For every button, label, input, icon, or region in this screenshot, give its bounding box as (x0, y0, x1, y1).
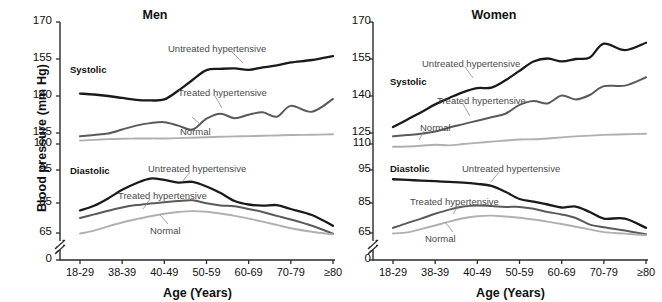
series-label-treated-men-dia: Treated hypertensive (118, 190, 207, 201)
y-tick-label-w-65: 65 (337, 225, 371, 237)
y-tick-label-0: 0 (18, 252, 52, 264)
y-tick-label-140: 140 (18, 88, 52, 100)
x-axis-title: Age (Years) (466, 286, 556, 300)
group-label-diastolic-women: Diastolic (390, 163, 430, 174)
group-label-systolic-women: Systolic (390, 76, 426, 87)
series-label-normal-women-sys: Normal (420, 122, 451, 133)
series-label-untreated-women-dia: Untreated hypertensive (462, 163, 560, 174)
y-tick-label-w-155: 155 (337, 51, 371, 63)
figure-root: Blood pressure (mm Hg) Men Women 0658595… (0, 0, 662, 302)
series-label-treated-women-dia: Treated hypertensive (410, 196, 499, 207)
y-tick-label-w-110: 110 (337, 136, 371, 148)
series-label-untreated-women-sys: Untreated hypertensive (422, 58, 520, 69)
x-tick-label-≥80: ≥80 (307, 266, 359, 278)
series-label-treated-men-sys: Treated hypertensive (178, 87, 267, 98)
group-label-systolic-men: Systolic (70, 64, 106, 75)
y-tick-label-125: 125 (18, 125, 52, 137)
series-label-normal-women-dia: Normal (425, 233, 456, 244)
y-tick-label-w-95: 95 (337, 162, 371, 174)
series-label-normal-men-sys: Normal (180, 126, 211, 137)
y-tick-label-65: 65 (18, 225, 52, 237)
plot-area-women (331, 0, 662, 302)
y-tick-label-85: 85 (18, 195, 52, 207)
y-tick-label-w-170: 170 (337, 14, 371, 26)
y-tick-label-95: 95 (18, 162, 52, 174)
series-label-untreated-men-sys: Untreated hypertensive (168, 43, 266, 54)
series-label-normal-men-dia: Normal (150, 225, 181, 236)
series-label-untreated-men-dia: Untreated hypertensive (148, 163, 246, 174)
y-tick-label-170: 170 (18, 14, 52, 26)
group-label-diastolic-men: Diastolic (70, 165, 110, 176)
series-label-treated-women-sys: Treated hypertensive (437, 95, 526, 106)
x-axis-title: Age (Years) (153, 286, 243, 300)
y-tick-label-w-125: 125 (337, 125, 371, 137)
y-tick-label-155: 155 (18, 51, 52, 63)
y-tick-label-w-85: 85 (337, 195, 371, 207)
y-tick-label-w-0: 0 (337, 252, 371, 264)
y-tick-label-110: 110 (18, 136, 52, 148)
x-tick-label-≥80: ≥80 (620, 266, 662, 278)
panel-women: Women (331, 0, 662, 302)
y-tick-label-w-140: 140 (337, 88, 371, 100)
